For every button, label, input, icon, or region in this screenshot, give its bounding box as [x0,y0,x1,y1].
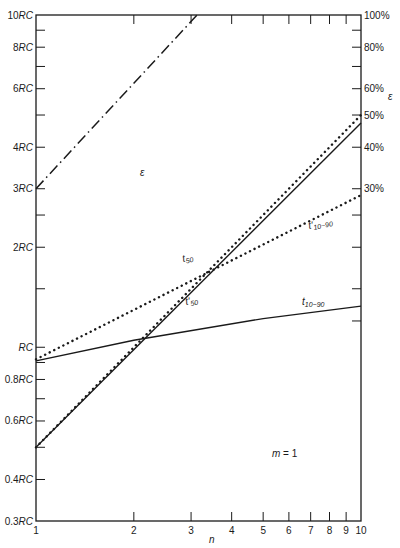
y-left-tick-label: 6RC [13,83,34,94]
x-tick-label: 7 [308,525,314,536]
x-tick-label: 9 [343,525,349,536]
y-left-tick-label: 3RC [13,183,34,194]
y-left-tick-label: 2RC [13,242,34,253]
y-left-tick-label: 0.4RC [5,474,34,485]
x-tick-label: 6 [286,525,292,536]
x-tick-label: 8 [327,525,333,536]
y-right-tick-label: 100% [364,10,390,21]
y-left-tick-label: 0.8RC [5,374,34,385]
y-right-tick-label: 40% [364,142,384,153]
y-left-tick-label: 0.6RC [5,415,34,426]
x-axis-title: n [209,534,215,545]
y-right-tick-label: 60% [364,83,384,94]
t10-90-prime-label: t'10−90 [307,215,333,232]
t50-label: t50 [181,251,194,265]
t50-prime-label: t'50 [184,294,199,308]
epsilon-curve-label: ε [140,167,145,178]
y-left-tick-label: RC [19,342,34,353]
y-left-tick-label: 0.3RC [5,516,34,527]
x-tick-label: 5 [260,525,266,536]
series-lines [36,15,361,447]
t10-90-label: t10−90 [302,296,325,308]
y-left-tick-label: 4RC [13,142,34,153]
x-tick-label: 3 [188,525,194,536]
plot-frame [36,15,361,521]
axes-frame [36,15,361,521]
y-right-tick-label: 80% [364,42,384,53]
epsilon-axis-label: ε [388,91,393,102]
m-equals-annotation: m = 1 [272,448,298,459]
x-tick-label: 10 [355,525,367,536]
y-left-tick-label: 10RC [7,10,33,21]
series---line [36,15,197,189]
series-t50-line [36,123,361,447]
axis-ticks: 123456789100.3RC0.4RC0.6RC0.8RCRC2RC3RC4… [5,10,390,537]
series-t10-90-line [36,306,361,361]
series-t-10-90-line [36,195,361,359]
series-t-50-line [36,115,361,447]
x-tick-label: 2 [131,525,137,536]
y-left-tick-label: 8RC [13,42,34,53]
chart: 123456789100.3RC0.4RC0.6RC0.8RCRC2RC3RC4… [0,0,400,548]
y-right-tick-label: 30% [364,183,384,194]
y-right-tick-label: 50% [364,110,384,121]
x-tick-label: 4 [229,525,235,536]
x-tick-label: 1 [33,525,39,536]
